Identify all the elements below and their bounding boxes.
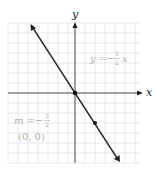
equation-label: y = − 3 2 x — [89, 50, 128, 66]
y-axis-label: y — [71, 8, 79, 21]
svg-text:2: 2 — [115, 59, 119, 66]
svg-text:−: − — [106, 53, 114, 64]
x-axis-arrow-icon — [137, 91, 143, 96]
svg-text:m =: m = — [14, 115, 35, 126]
svg-text:x: x — [122, 53, 128, 64]
x-axis-label: x — [146, 86, 153, 99]
line-arrow-top-icon — [31, 24, 37, 31]
svg-text:2: 2 — [45, 121, 49, 128]
svg-text:3: 3 — [115, 50, 119, 57]
point-label: (0, 0) — [18, 131, 45, 142]
point-2-neg3 — [93, 121, 97, 125]
svg-text:−: − — [35, 115, 43, 126]
svg-text:3: 3 — [45, 112, 49, 119]
slope-label: m = − 3 2 — [14, 112, 50, 128]
point-origin — [73, 91, 77, 95]
svg-text:y =: y = — [89, 53, 107, 64]
coordinate-plane: y x y = − 3 2 x m = − 3 2 (0, 0) — [0, 0, 156, 172]
